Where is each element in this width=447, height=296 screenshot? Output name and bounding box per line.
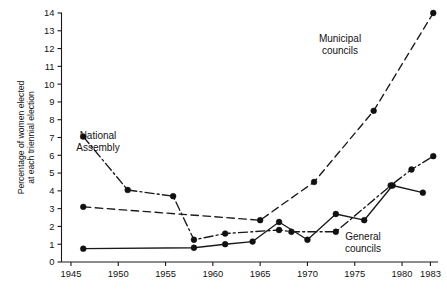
data-point-marker [420,190,426,196]
data-point-marker [222,241,228,247]
y-tick-label: 9 [49,96,54,107]
data-point-marker [390,183,396,189]
x-axis: 194519501955196019651970197519801983 [61,262,441,279]
y-tick-label: 12 [44,43,54,54]
y-tick-label: 10 [44,79,54,90]
data-series-group [80,10,436,251]
x-tick-label: 1975 [344,268,365,279]
data-point-marker [305,237,311,243]
y-tick-label: 14 [44,7,54,18]
y-tick-label: 1 [49,239,54,250]
y-tick-label: 7 [49,132,54,143]
data-point-marker [257,217,263,223]
annotation-label-line-2: councils [322,45,358,56]
data-point-marker [170,193,176,199]
data-point-marker [430,10,436,16]
y-tick-label: 6 [49,150,54,161]
y-tick-label: 3 [49,203,54,214]
data-point-marker [430,153,436,159]
y-tick-label: 2 [49,221,54,232]
series-path [83,13,433,220]
annotation-general-councils: Generalcouncils [345,231,381,254]
x-tick-label: 1980 [392,268,413,279]
x-tick-label: 1965 [250,268,271,279]
data-point-marker [191,237,197,243]
x-tick-label: 1945 [61,268,82,279]
y-tick-label: 5 [49,167,54,178]
x-tick-label: 1970 [297,268,318,279]
data-point-marker [80,246,86,252]
x-tick-label: 1950 [108,268,129,279]
line-chart: Percentage of women electedat each trien… [0,0,447,296]
y-tick-label: 13 [44,25,54,36]
data-point-marker [311,179,317,185]
data-point-marker [80,204,86,210]
x-tick-label: 1955 [155,268,176,279]
y-axis: 01234567891011121314 [44,7,61,267]
annotation-municipal-councils: Municipalcouncils [319,33,361,56]
y-axis-title-line-1: Percentage of women elected [16,80,26,194]
data-point-marker [409,167,415,173]
y-axis-title-line-2: at each triennial election [26,91,36,184]
annotation-national-assembly: NationalAssembly [76,130,119,153]
x-tick-label: 1983 [420,268,441,279]
annotation-label-line-2: councils [345,243,381,254]
data-point-marker [276,227,282,233]
data-point-marker [276,219,282,225]
y-tick-label: 11 [45,61,55,72]
x-tick-label: 1960 [202,268,223,279]
annotation-label-line-1: National [80,130,117,141]
y-tick-label: 4 [49,185,54,196]
data-point-marker [371,108,377,114]
annotation-label-line-2: Assembly [76,142,119,153]
annotation-label-line-1: Municipal [319,33,361,44]
y-axis-title: Percentage of women electedat each trien… [16,80,37,194]
data-point-marker [191,245,197,251]
y-tick-label: 8 [49,114,54,125]
annotation-label-line-1: General [345,231,381,242]
data-point-marker [222,231,228,237]
series-annotations: NationalAssemblyMunicipalcouncilsGeneral… [76,33,381,254]
y-tick-label: 0 [49,256,54,267]
chart-figure: Percentage of women electedat each trien… [0,0,447,296]
data-point-marker [250,239,256,245]
data-point-marker [333,211,339,217]
series-path [83,137,433,240]
series-national-assembly [80,134,436,243]
data-point-marker [125,187,131,193]
data-point-marker [361,217,367,223]
data-point-marker [333,229,339,235]
